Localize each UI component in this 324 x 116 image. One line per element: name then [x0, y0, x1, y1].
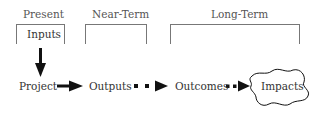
right-arrow-icon	[57, 81, 83, 92]
connectors	[0, 0, 324, 116]
flow-node-project: Project	[19, 81, 57, 92]
dotted-arrow-icon	[226, 81, 250, 92]
down-arrow-icon	[35, 48, 46, 77]
flow-node-outcomes: Outcomes	[175, 81, 228, 92]
flow-node-outputs: Outputs	[89, 81, 132, 92]
flow-node-impacts: Impacts	[261, 81, 304, 92]
dotted-arrow-icon	[134, 81, 168, 92]
